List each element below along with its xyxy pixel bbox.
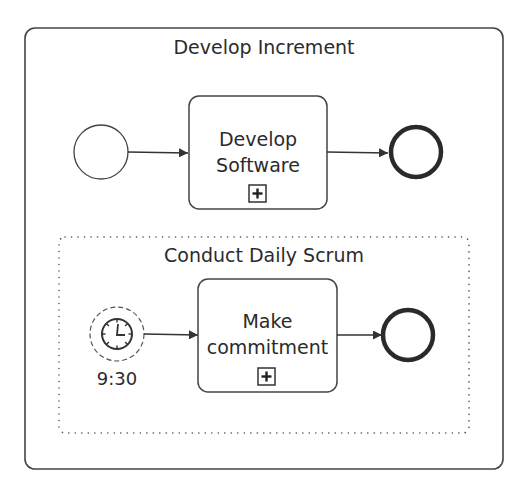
event-subprocess-title: Conduct Daily Scrum — [59, 244, 469, 266]
expand-subprocess-icon[interactable] — [258, 368, 275, 385]
expand-subprocess-icon[interactable] — [249, 185, 266, 202]
clock-icon — [102, 319, 132, 349]
timer-label: 9:30 — [87, 368, 147, 389]
start-event[interactable] — [74, 125, 128, 179]
sequence-flow-timer-to-commitment[interactable] — [144, 334, 198, 335]
make-commitment-line2: commitment — [198, 334, 337, 360]
end-event[interactable] — [391, 127, 441, 177]
timer-start-event[interactable] — [90, 307, 144, 361]
sequence-flow-start-to-develop[interactable] — [128, 152, 188, 153]
event-subprocess-end-event[interactable] — [383, 310, 433, 360]
make-commitment-line1: Make — [198, 308, 337, 334]
develop-software-label: Develop Software — [189, 126, 327, 178]
develop-software-line1: Develop — [189, 126, 327, 152]
develop-software-line2: Software — [189, 152, 327, 178]
sequence-flow-develop-to-end[interactable] — [327, 152, 388, 153]
make-commitment-label: Make commitment — [198, 308, 337, 360]
outer-subprocess-title: Develop Increment — [25, 36, 503, 58]
